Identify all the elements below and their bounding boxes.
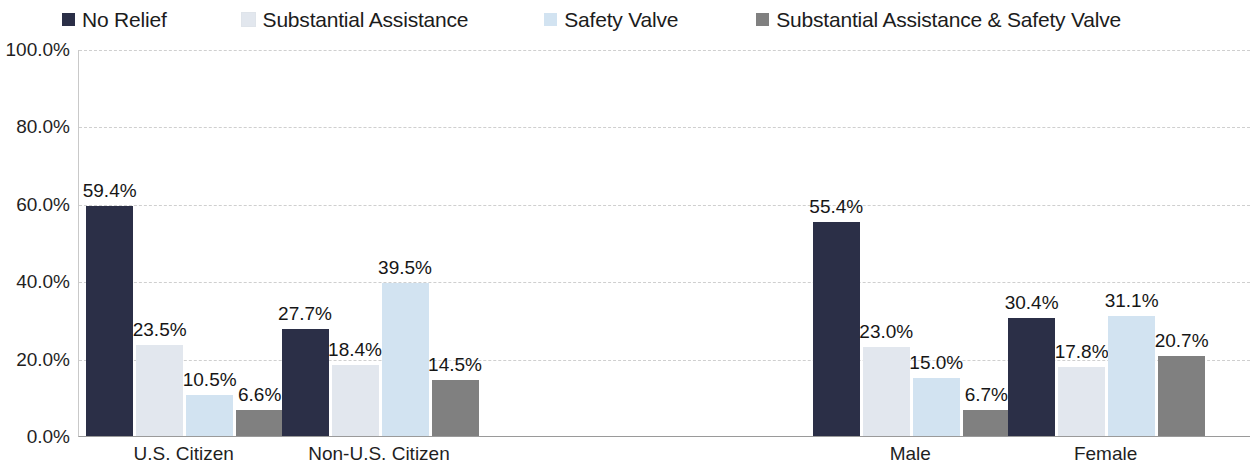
bar[interactable]	[382, 283, 429, 436]
bar[interactable]	[332, 365, 379, 436]
bar-value-label: 30.4%	[1005, 293, 1059, 312]
bar-value-label: 6.6%	[238, 385, 281, 404]
bar-value-label: 27.7%	[278, 304, 332, 323]
y-axis-tick-label: 60.0%	[0, 195, 70, 214]
chart-legend: No Relief Substantial Assistance Safety …	[0, 0, 1258, 38]
bar[interactable]	[913, 378, 960, 436]
bar-value-label: 31.1%	[1105, 291, 1159, 310]
x-axis-category-label: Female	[1074, 444, 1137, 463]
x-axis-category-label: Non-U.S. Citizen	[308, 444, 450, 463]
bar-value-label: 20.7%	[1155, 331, 1209, 350]
legend-swatch-icon	[756, 13, 769, 26]
legend-item-label: No Relief	[82, 9, 167, 30]
x-axis-category-label: Male	[890, 444, 931, 463]
legend-swatch-icon	[241, 12, 256, 27]
legend-item-label: Substantial Assistance & Safety Valve	[776, 9, 1121, 30]
bar-value-label: 55.4%	[809, 197, 863, 216]
bar[interactable]	[136, 345, 183, 436]
bar[interactable]	[186, 395, 233, 436]
bar[interactable]	[282, 329, 329, 436]
bar-value-label: 59.4%	[83, 181, 137, 200]
x-axis-category-label: U.S. Citizen	[134, 444, 234, 463]
gridline	[79, 205, 1250, 206]
bar-value-label: 39.5%	[378, 258, 432, 277]
y-axis-tick-label: 40.0%	[0, 272, 70, 291]
gridline	[79, 127, 1250, 128]
bar-value-label: 6.7%	[965, 385, 1008, 404]
bar-value-label: 23.0%	[859, 322, 913, 341]
legend-item-no-relief[interactable]: No Relief	[62, 9, 167, 30]
legend-item-label: Substantial Assistance	[263, 9, 469, 30]
bar[interactable]	[813, 222, 860, 436]
y-axis: 0.0%20.0%40.0%60.0%80.0%100.0%	[0, 50, 78, 437]
bar[interactable]	[1008, 318, 1055, 436]
bar[interactable]	[1058, 367, 1105, 436]
y-axis-tick-label: 20.0%	[0, 350, 70, 369]
y-axis-tick-label: 0.0%	[0, 427, 70, 446]
y-axis-tick-label: 100.0%	[0, 40, 70, 59]
bar[interactable]	[863, 347, 910, 436]
legend-item-label: Safety Valve	[564, 9, 678, 30]
gridline	[79, 50, 1250, 51]
bar-value-label: 14.5%	[428, 355, 482, 374]
legend-swatch-icon	[544, 13, 557, 26]
bar[interactable]	[86, 206, 133, 436]
bar[interactable]	[1158, 356, 1205, 436]
legend-item-safety-valve[interactable]: Safety Valve	[544, 9, 678, 30]
bar-value-label: 10.5%	[183, 370, 237, 389]
y-axis-tick-label: 80.0%	[0, 117, 70, 136]
gridline	[79, 282, 1250, 283]
legend-item-substantial-assistance-and-safety-valve[interactable]: Substantial Assistance & Safety Valve	[756, 9, 1121, 30]
bar-value-label: 17.8%	[1055, 342, 1109, 361]
bar[interactable]	[1108, 316, 1155, 436]
legend-swatch-icon	[62, 13, 75, 26]
bar[interactable]	[236, 410, 283, 436]
bar-value-label: 15.0%	[909, 353, 963, 372]
legend-item-substantial-assistance[interactable]: Substantial Assistance	[241, 9, 469, 30]
bar-chart-plot-area: 59.4%23.5%10.5%6.6%27.7%18.4%39.5%14.5%5…	[78, 50, 1250, 437]
bar[interactable]	[432, 380, 479, 436]
bar[interactable]	[963, 410, 1010, 436]
bar-value-label: 23.5%	[133, 320, 187, 339]
bar-value-label: 18.4%	[328, 340, 382, 359]
